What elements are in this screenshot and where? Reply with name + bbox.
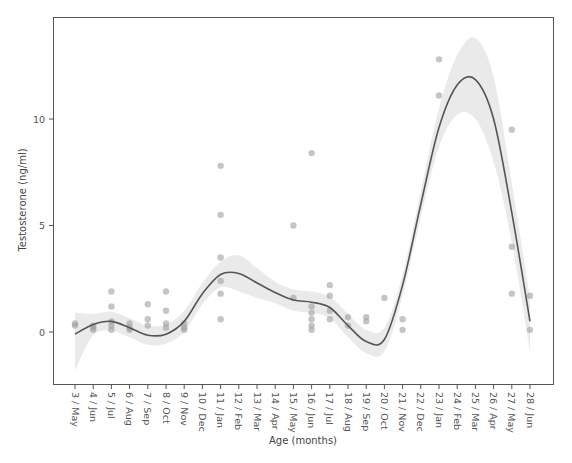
data-point (290, 222, 296, 228)
data-point (345, 314, 351, 320)
x-tick-label: 12 / Feb (233, 392, 244, 430)
data-point (509, 290, 515, 296)
data-point (217, 163, 223, 169)
data-point (163, 288, 169, 294)
x-tick-label: 3 / May (70, 392, 81, 427)
x-tick-label: 19 / Sep (361, 392, 372, 431)
x-tick-label: 18 / Aug (343, 392, 354, 432)
x-tick-label: 26 / Apr (488, 392, 499, 430)
data-point (145, 301, 151, 307)
x-tick-label: 8 / Oct (161, 392, 172, 424)
x-tick-label: 22 / Dec (415, 392, 426, 432)
data-point (308, 310, 314, 316)
x-tick-label: 25 / Mar (470, 392, 481, 431)
x-tick-label: 5 / Jul (106, 392, 117, 419)
data-point (527, 327, 533, 333)
x-tick-label: 13 / Mar (252, 392, 263, 431)
data-point (163, 325, 169, 331)
y-axis-title: Testosterone (ng/ml) (17, 148, 28, 252)
y-tick-label: 10 (33, 114, 45, 125)
data-point (509, 244, 515, 250)
data-point (108, 327, 114, 333)
x-tick-label: 28 / Jun (525, 392, 536, 428)
data-point (217, 290, 223, 296)
data-point (308, 303, 314, 309)
data-point (327, 316, 333, 322)
data-point (399, 316, 405, 322)
chart: 0510 3 / May4 / Jun5 / Jul6 / Aug7 / Sep… (0, 0, 572, 463)
x-tick-label: 16 / Jun (306, 392, 317, 428)
x-axis: 3 / May4 / Jun5 / Jul6 / Aug7 / Sep8 / O… (70, 385, 536, 434)
data-point (399, 327, 405, 333)
data-point (527, 293, 533, 299)
data-point (217, 316, 223, 322)
y-tick-label: 5 (39, 220, 45, 231)
data-point (436, 56, 442, 62)
data-point (308, 150, 314, 156)
data-point (72, 322, 78, 328)
y-tick-label: 0 (39, 327, 45, 338)
data-point (381, 295, 387, 301)
data-point (108, 303, 114, 309)
data-point (509, 126, 515, 132)
data-point (145, 322, 151, 328)
data-point (217, 212, 223, 218)
x-tick-label: 11 / Jan (215, 392, 226, 428)
plot-area (72, 37, 533, 370)
x-tick-label: 10 / Dec (197, 392, 208, 432)
data-point (108, 288, 114, 294)
data-point (363, 318, 369, 324)
data-point (308, 316, 314, 322)
data-point (145, 316, 151, 322)
x-tick-label: 14 / Apr (270, 392, 281, 430)
x-tick-label: 4 / Jun (88, 392, 99, 422)
data-point (163, 308, 169, 314)
x-tick-label: 9 / Nov (179, 392, 190, 426)
x-tick-label: 6 / Aug (124, 392, 135, 426)
data-point (217, 254, 223, 260)
x-tick-label: 21 / Nov (397, 392, 408, 432)
data-point (217, 278, 223, 284)
x-tick-label: 27 / May (506, 392, 517, 433)
data-point (436, 92, 442, 98)
x-axis-title: Age (months) (269, 435, 337, 446)
y-axis: 0510 (33, 114, 54, 338)
x-tick-label: 24 / Feb (452, 392, 463, 430)
data-point (181, 327, 187, 333)
x-tick-label: 17 / Jul (324, 392, 335, 425)
x-tick-label: 23 / Jan (434, 392, 445, 428)
data-point (327, 282, 333, 288)
x-tick-label: 20 / Oct (379, 392, 390, 430)
x-tick-label: 7 / Sep (142, 392, 153, 425)
data-point (308, 327, 314, 333)
confidence-band (75, 37, 530, 370)
data-point (327, 293, 333, 299)
x-tick-label: 15 / May (288, 392, 299, 433)
